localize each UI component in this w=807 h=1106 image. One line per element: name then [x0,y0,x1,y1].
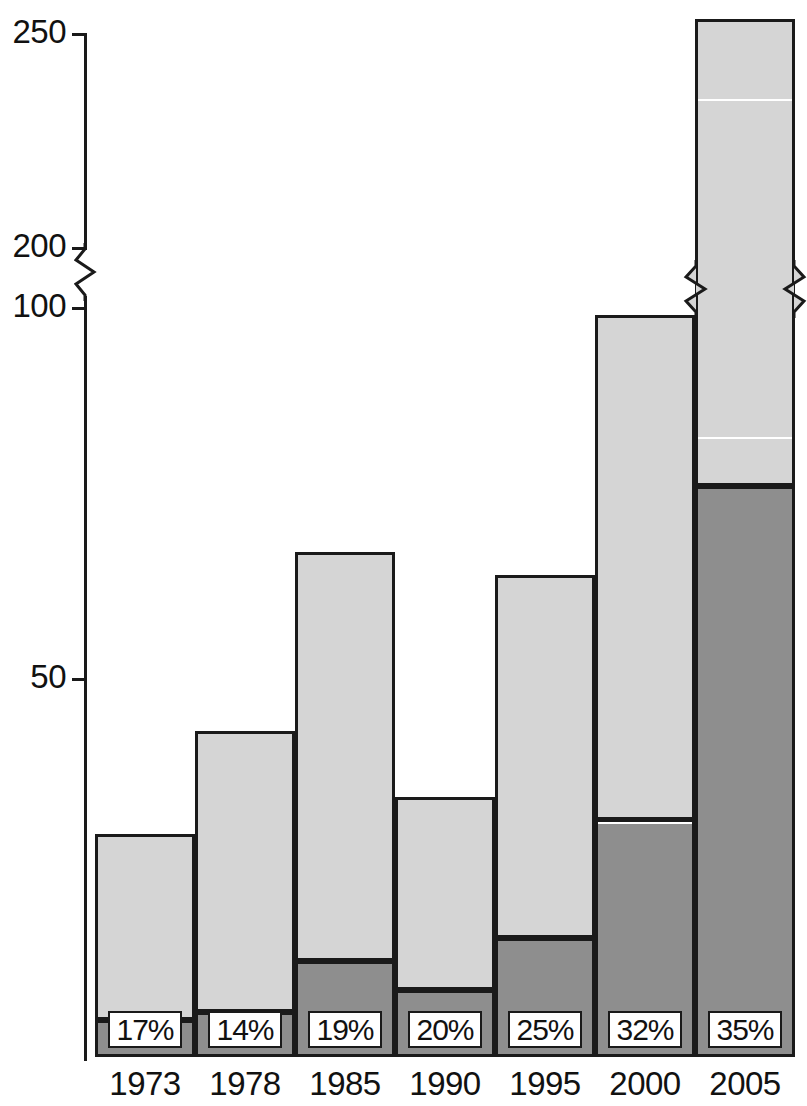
bar-2000-upper-segment [595,315,695,820]
bar-1973-upper-segment [95,834,195,1020]
bar-1978-upper-segment [195,731,295,1013]
y-tick-200 [72,247,87,250]
pct-label-1973: 17% [108,1011,182,1048]
segment-hairline [598,822,692,824]
bar-2005-lower-segment [695,486,795,1057]
bar-1995-upper-segment [495,575,595,939]
bar-1995 [495,575,595,1057]
y-axis-line-upper [84,33,87,249]
segment-hairline [698,99,792,101]
x-label-2005: 2005 [695,1067,795,1100]
x-label-2000: 2000 [595,1067,695,1100]
bar-1990-upper-segment [395,797,495,990]
x-label-1995: 1995 [495,1067,595,1100]
y-tick-50 [72,678,87,681]
axis-break-zigzag-icon [74,243,100,301]
bar-1978 [195,731,295,1057]
x-label-1973: 1973 [95,1067,195,1100]
y-tick-250 [72,33,87,36]
y-tick-label-200: 200 [0,229,66,262]
x-label-1990: 1990 [395,1067,495,1100]
y-tick-100 [72,307,87,310]
bar-1985-upper-segment [295,552,395,960]
y-tick-label-100: 100 [0,289,66,322]
x-label-1985: 1985 [295,1067,395,1100]
bar-2005-upper-segment [695,19,795,486]
pct-label-1990: 20% [408,1011,482,1048]
bar-2000 [595,315,695,1057]
x-label-1978: 1978 [195,1067,295,1100]
segment-hairline [698,437,792,439]
bar-2005 [695,19,795,1057]
bar-1985 [295,552,395,1057]
pct-label-1978: 14% [208,1011,282,1048]
y-tick-label-50: 50 [0,660,66,693]
pct-label-1995: 25% [508,1011,582,1048]
pct-label-1985: 19% [308,1011,382,1048]
pct-label-2000: 32% [608,1011,682,1048]
pct-label-2005: 35% [708,1011,782,1048]
y-tick-label-250: 250 [0,15,66,48]
